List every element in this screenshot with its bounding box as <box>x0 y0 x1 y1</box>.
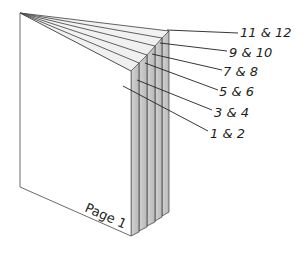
label-5-6: 5 & 6 <box>219 84 254 99</box>
label-1-2: 1 & 2 <box>210 126 245 141</box>
label-7-8: 7 & 8 <box>223 64 258 79</box>
leader-9-10 <box>160 43 227 51</box>
label-11-12: 11 & 12 <box>240 25 292 40</box>
sheet-labels: 1 & 2 3 & 4 5 & 6 7 & 8 9 & 10 11 & 12 <box>210 25 292 141</box>
label-9-10: 9 & 10 <box>229 45 272 60</box>
leader-11-12 <box>167 30 238 33</box>
booklet-diagram: Page 1 1 & 2 3 & 4 5 & 6 7 & 8 9 & 10 11… <box>0 0 304 253</box>
label-3-4: 3 & 4 <box>214 105 249 120</box>
